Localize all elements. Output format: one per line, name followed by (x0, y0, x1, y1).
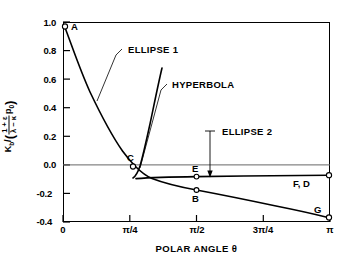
point-label-fd: F, D (293, 178, 310, 189)
annotation-ellipse-1: ELLIPSE 1 (128, 44, 178, 55)
x-axis-label: POLAR ANGLE θ (63, 243, 330, 254)
x-tick-label: 0 (43, 225, 83, 235)
point-label-e: E (192, 163, 198, 174)
y-tick-label: 0.8 (22, 46, 56, 56)
y-tick-label: 1.0 (22, 18, 56, 28)
y-tick-label: 0.6 (22, 75, 56, 85)
y-tick-label: 0.0 (22, 160, 56, 170)
y-axis-label-p: p (3, 109, 13, 115)
y-axis-label-subscript: b (7, 142, 14, 146)
x-tick-label: π/4 (110, 225, 150, 235)
y-tick-label: -0.2 (18, 189, 52, 199)
y-tick-label: 0.2 (22, 132, 56, 142)
point-label-a: A (71, 21, 78, 32)
y-axis-fraction: 1 + ελ − κ (1, 115, 18, 134)
y-axis-label-p-subscript: 0 (7, 105, 14, 109)
point-label-c: C (127, 152, 134, 163)
chart-figure: 1.0 0.8 0.6 0.4 0.2 0.0 -0.2 -0.4 0 π/4 … (0, 0, 350, 273)
point-label-b: B (192, 193, 199, 204)
y-axis-label-symbol: K (3, 146, 13, 153)
plot-frame (63, 22, 330, 222)
x-tick-label: π/2 (177, 225, 217, 235)
x-tick-label: 3π/4 (243, 225, 283, 235)
y-axis-label: Kb/(1 + ελ − κp0) (2, 60, 16, 190)
paren-open: ( (2, 135, 17, 139)
point-label-g: G (314, 204, 321, 215)
x-tick-label: π (310, 225, 350, 235)
annotation-ellipse-2: ELLIPSE 2 (222, 126, 272, 137)
y-tick-label: 0.4 (22, 103, 56, 113)
annotation-hyperbola: HYPERBOLA (172, 79, 234, 90)
